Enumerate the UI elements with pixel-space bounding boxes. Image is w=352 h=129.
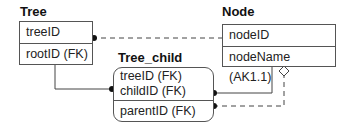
- entity-tree[interactable]: treeID rootID (FK): [19, 21, 93, 65]
- attribute: parentID (FK): [114, 100, 213, 121]
- entity-title-tree-child: Tree_child: [118, 50, 182, 65]
- diamond-icon: [279, 66, 289, 76]
- attribute: nodeName (AK1.1): [223, 46, 335, 67]
- entity-title-node: Node: [222, 4, 255, 19]
- attribute: rootID (FK): [20, 43, 92, 64]
- entity-node[interactable]: nodeID nodeName (AK1.1): [222, 24, 336, 67]
- key-attribute: nodeID: [223, 25, 335, 46]
- key-attribute: treeID: [20, 22, 92, 43]
- entity-tree-child[interactable]: treeID (FK) childID (FK) parentID (FK): [113, 67, 214, 122]
- entity-title-tree: Tree: [20, 4, 47, 19]
- key-attribute: childID (FK): [120, 84, 213, 99]
- key-attributes: treeID (FK) childID (FK): [114, 68, 213, 100]
- tree-treechild-relationship-line: [55, 64, 113, 89]
- key-attribute: treeID (FK): [120, 69, 213, 84]
